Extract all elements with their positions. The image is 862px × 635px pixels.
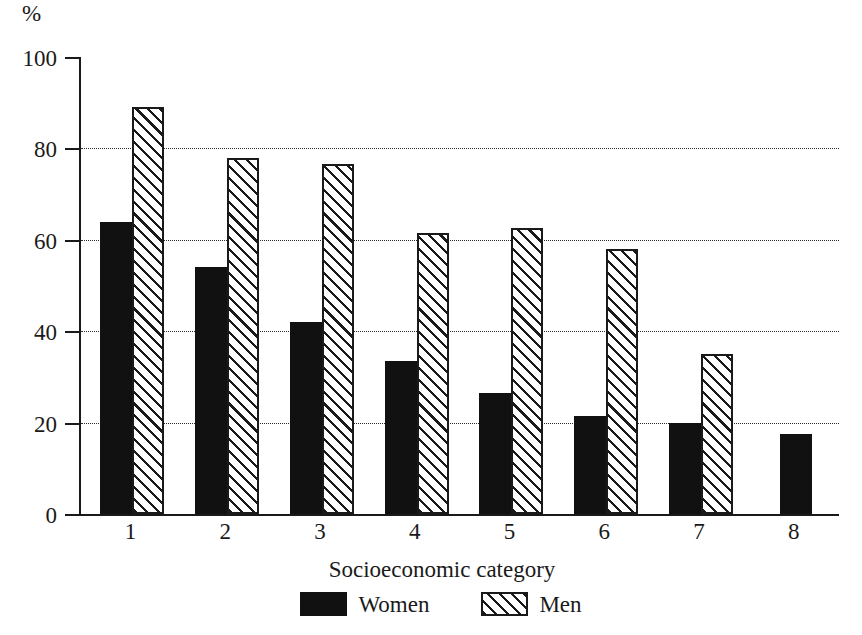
x-tick-label-7: 7 xyxy=(693,520,705,543)
legend: WomenMen xyxy=(0,592,862,616)
y-tick-label: 0 xyxy=(46,504,58,527)
y-tick-mark: 20 xyxy=(65,423,79,425)
legend-swatch-men xyxy=(481,592,528,616)
bar-men-4 xyxy=(417,233,449,514)
bar-men-2 xyxy=(227,158,259,514)
x-tick-label-8: 8 xyxy=(788,520,800,543)
bar-women-4 xyxy=(385,361,417,514)
bar-women-6 xyxy=(574,416,606,514)
y-tick-mark: 100 xyxy=(65,57,79,59)
bar-women-2 xyxy=(195,267,227,514)
x-tick-label-3: 3 xyxy=(314,520,326,543)
y-tick-mark: 0 xyxy=(65,514,79,516)
bars-group xyxy=(81,57,839,514)
y-tick-mark: 80 xyxy=(65,148,79,150)
y-tick-mark: 60 xyxy=(65,240,79,242)
y-tick-label: 40 xyxy=(34,321,57,344)
x-tick-label-1: 1 xyxy=(125,520,137,543)
bar-women-3 xyxy=(290,322,322,514)
bar-men-1 xyxy=(132,107,164,514)
bar-men-6 xyxy=(606,249,638,514)
bar-women-5 xyxy=(479,393,511,514)
legend-item-men: Men xyxy=(481,592,581,616)
x-tick-label-5: 5 xyxy=(504,520,516,543)
bar-women-1 xyxy=(100,222,132,514)
legend-item-women: Women xyxy=(300,592,429,616)
legend-label-men: Men xyxy=(539,593,581,616)
bar-women-8 xyxy=(780,434,812,514)
y-tick-label: 100 xyxy=(23,47,58,70)
bar-women-7 xyxy=(669,423,701,514)
x-axis-title: Socioeconomic category xyxy=(0,558,862,581)
y-axis-unit-label: % xyxy=(22,2,42,25)
legend-label-women: Women xyxy=(358,593,429,616)
y-tick-label: 60 xyxy=(34,229,57,252)
legend-swatch-women xyxy=(300,592,347,616)
bar-men-5 xyxy=(511,228,543,514)
y-tick-label: 20 xyxy=(34,412,57,435)
x-axis-line xyxy=(79,514,839,516)
bar-men-7 xyxy=(701,354,733,514)
bar-men-3 xyxy=(322,164,354,514)
plot-area: 020406080100 xyxy=(79,57,839,514)
x-tick-label-4: 4 xyxy=(409,520,421,543)
bar-chart: % 020406080100 12345678 Socioeconomic ca… xyxy=(0,0,862,635)
x-axis-ticks-group: 12345678 xyxy=(79,520,839,556)
y-tick-label: 80 xyxy=(34,138,57,161)
x-tick-label-6: 6 xyxy=(598,520,610,543)
y-tick-mark: 40 xyxy=(65,331,79,333)
x-tick-label-2: 2 xyxy=(219,520,231,543)
